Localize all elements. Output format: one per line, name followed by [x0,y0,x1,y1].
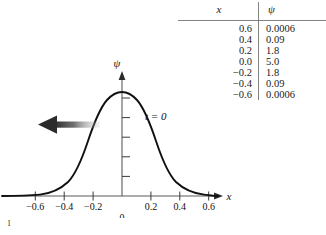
table-row: 0.4 0.09 [178,34,326,45]
cell-x: 0.2 [178,45,252,56]
table-row: 0.6 0.0006 [178,23,326,34]
x-tick-label: 0.4 [174,201,187,212]
y-axis-ticks [122,98,130,176]
page-mark: 1 [7,219,11,228]
y-axis-label: ψ [114,58,121,69]
cell-x: 0.4 [178,34,252,45]
table-header-rule [178,20,326,21]
cell-psi: 0.09 [266,34,324,45]
cell-psi: 1.8 [266,45,324,56]
table-header-row: x ψ [178,2,326,20]
cell-psi: 5.0 [266,56,324,67]
wave-packet-curve [2,92,218,196]
x-tick-label: 0.6 [202,201,215,212]
cell-x: 0.6 [178,23,252,34]
table-header-psi: ψ [262,3,320,15]
time-annotation: t = 0 [145,110,167,122]
cell-psi: 0.09 [266,78,324,89]
cell-psi: 0.0006 [266,23,324,34]
cell-psi: 0.0006 [266,89,324,100]
x-tick-labels: −0.6 −0.4 −0.2 0.2 0.4 0.6 [26,201,215,212]
x-tick-label: −0.4 [55,201,73,212]
origin-label: 0 [120,212,125,218]
x-tick-label: 0.2 [145,201,158,212]
wave-packet-plot: ψ x t = 0 0 −0.6 −0.4 −0.2 0.2 0.4 0.6 [0,58,240,218]
figure-root: x ψ 0.6 0.0006 0.4 0.09 0.2 1.8 0.0 5.0 [0,0,326,235]
y-axis [119,71,126,196]
x-tick-label: −0.6 [26,201,44,212]
table-row: 0.2 1.8 [178,45,326,56]
x-tick-label: −0.2 [84,201,102,212]
x-axis-label: x [226,190,232,202]
cell-psi: 1.8 [266,67,324,78]
table-header-x: x [186,3,252,15]
